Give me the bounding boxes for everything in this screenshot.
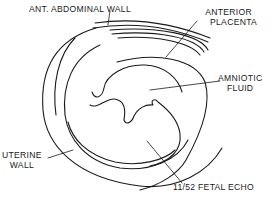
label-text: WALL [2,160,42,170]
placenta-lines [110,29,208,55]
abdominal-wall-lines [93,21,210,42]
label-text: ANTERIOR [200,7,257,17]
label-text: AMNIOTIC [218,73,262,83]
label-text: FLUID [218,83,262,93]
gestation-sac [64,45,207,190]
label-text: UTERINE [2,150,42,160]
label-text: ANT. ABDOMINAL WALL [29,4,131,14]
label-uterine-wall: UTERINE WALL [2,150,42,170]
fetal-echo-shape [90,65,182,166]
fetal-echo-leader [147,141,182,183]
label-text: 11/52 FETAL ECHO [173,182,254,192]
label-text: PLACENTA [210,17,257,27]
label-anterior-placenta: ANTERIOR PLACENTA [208,7,257,27]
label-amniotic-fluid: AMNIOTIC FLUID [218,73,262,93]
amniotic-leader [150,81,220,90]
label-fetal-echo: 11/52 FETAL ECHO [173,182,254,192]
label-ant-abdominal-wall: ANT. ABDOMINAL WALL [29,4,131,14]
uterine-wall [43,28,222,187]
